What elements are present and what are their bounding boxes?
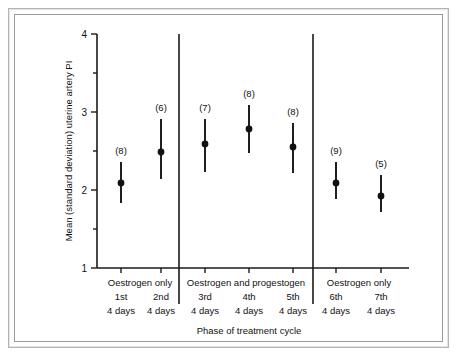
x-tick-duration-4: 4 days bbox=[235, 305, 263, 316]
data-point-4[interactable]: (8) bbox=[243, 88, 255, 153]
figure-outer-frame: 4 3 2 1 Mean (standard deviation) uterin… bbox=[8, 8, 449, 348]
y-tick-label-2: 2 bbox=[81, 185, 87, 196]
point-count-label: (7) bbox=[199, 102, 211, 113]
x-axis-title: Phase of treatment cycle bbox=[197, 325, 302, 336]
point-count-label: (9) bbox=[330, 145, 342, 156]
x-tick-ordinal-5: 5th bbox=[286, 291, 299, 302]
data-point-6[interactable]: (9) bbox=[330, 145, 342, 199]
y-tick-label-4: 4 bbox=[81, 29, 87, 40]
y-axis-title: Mean (standard deviation) uterine artery… bbox=[63, 61, 74, 242]
data-point-1[interactable]: (8) bbox=[115, 145, 127, 203]
x-tick-duration-7: 4 days bbox=[367, 305, 395, 316]
x-tick-ordinal-labels: 1st 2nd 3rd 4th 5th 6th 7th bbox=[115, 291, 388, 302]
point-count-label: (8) bbox=[287, 106, 299, 117]
group-label-oestrogen-and-progestogen: Oestrogen and progestogen bbox=[187, 277, 305, 288]
x-tick-duration-6: 4 days bbox=[322, 305, 350, 316]
y-tick-label-3: 3 bbox=[81, 107, 87, 118]
x-tick-duration-2: 4 days bbox=[147, 305, 175, 316]
x-tick-duration-5: 4 days bbox=[279, 305, 307, 316]
y-tick-label-1: 1 bbox=[81, 263, 87, 274]
point-count-label: (8) bbox=[115, 145, 127, 156]
data-point-2[interactable]: (6) bbox=[155, 102, 167, 179]
x-tick-ordinal-2: 2nd bbox=[153, 291, 169, 302]
group-label-oestrogen-only-1: Oestrogen only bbox=[108, 277, 173, 288]
point-count-label: (6) bbox=[155, 102, 167, 113]
data-series: (8) (6) (7) (8) (8) bbox=[115, 88, 387, 212]
data-point-7[interactable]: (5) bbox=[375, 158, 387, 212]
x-tick-duration-labels: 4 days 4 days 4 days 4 days 4 days 4 day… bbox=[107, 305, 395, 316]
x-tick-duration-1: 4 days bbox=[107, 305, 135, 316]
x-tick-ordinal-7: 7th bbox=[374, 291, 387, 302]
point-count-label: (8) bbox=[243, 88, 255, 99]
group-label-oestrogen-only-2: Oestrogen only bbox=[327, 277, 392, 288]
uterine-artery-pi-chart: 4 3 2 1 Mean (standard deviation) uterin… bbox=[9, 9, 450, 349]
data-point-3[interactable]: (7) bbox=[199, 102, 211, 172]
y-axis-ticks bbox=[91, 34, 97, 268]
x-tick-ordinal-4: 4th bbox=[242, 291, 255, 302]
data-point-5[interactable]: (8) bbox=[287, 106, 299, 173]
point-count-label: (5) bbox=[375, 158, 387, 169]
x-tick-duration-3: 4 days bbox=[191, 305, 219, 316]
x-tick-ordinal-6: 6th bbox=[329, 291, 342, 302]
x-tick-ordinal-3: 3rd bbox=[198, 291, 212, 302]
x-tick-ordinal-1: 1st bbox=[115, 291, 128, 302]
